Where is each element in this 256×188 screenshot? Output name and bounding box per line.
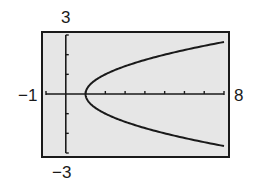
graph-window <box>0 0 256 188</box>
